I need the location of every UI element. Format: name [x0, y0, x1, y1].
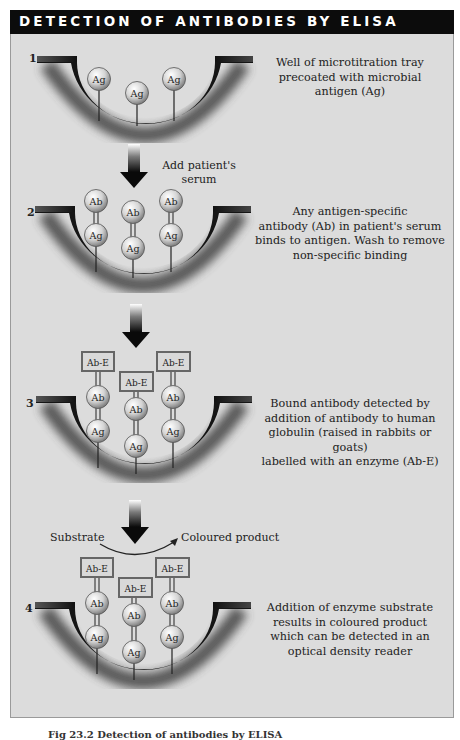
coloured-product-label: Coloured product [181, 531, 280, 544]
desc-line: optical density reader [250, 645, 450, 660]
enzyme-antibody-label: Ab-E [162, 358, 185, 368]
desc-line: non-specific binding [250, 249, 450, 264]
antigen-label: Ag [166, 426, 180, 437]
desc-line: globulin (raised in rabbits or goats) [250, 426, 450, 455]
antigen-label: Ag [165, 632, 179, 643]
step-2-description: Any antigen-specific antibody (Ab) in pa… [250, 205, 450, 263]
step-1-number: 1 [29, 52, 37, 65]
add-serum-label-line2: serum [182, 173, 217, 186]
antibody-label: Ab [166, 392, 180, 403]
desc-line: antibody (Ab) in patient's serum [250, 220, 450, 235]
antigen-label: Ag [129, 441, 143, 452]
step-3-description: Bound antibody detected by addition of a… [250, 397, 450, 470]
antibody-label: Ab [90, 598, 104, 609]
desc-line: antigen (Ag) [250, 85, 450, 100]
antibody-label: Ab [127, 610, 141, 621]
enzyme-antibody-label: Ab-E [161, 564, 184, 574]
enzyme-antibody-label: Ab-E [125, 378, 148, 388]
desc-line: binds to antigen. Wash to remove [250, 234, 450, 249]
antigen-label: Ag [92, 74, 106, 85]
desc-line: labelled with an enzyme (Ab-E) [250, 455, 450, 470]
add-serum-label-line1: Add patient's [161, 159, 236, 172]
antigen-label: Ag [89, 230, 103, 241]
down-arrow-2 [122, 304, 150, 348]
antibody-label: Ab [164, 196, 178, 207]
desc-line: Well of microtitration tray [250, 56, 450, 71]
substrate-label: Substrate [50, 531, 104, 544]
desc-line: Any antigen-specific [250, 205, 450, 220]
desc-line: Addition of enzyme substrate [250, 601, 450, 616]
antigen-label: Ag [126, 243, 140, 254]
desc-line: precoated with microbial [250, 71, 450, 86]
antibody-label: Ab [129, 404, 143, 415]
step-2-number: 2 [27, 206, 35, 219]
enzyme-antibody-label: Ab-E [124, 584, 147, 594]
desc-line: addition of antibody to human [250, 412, 450, 427]
antigen-label: Ag [167, 74, 181, 85]
antigen-label: Ag [91, 426, 105, 437]
antibody-label: Ab [89, 196, 103, 207]
down-arrow-1 [120, 144, 148, 188]
enzyme-antibody-label: Ab-E [85, 564, 108, 574]
substrate-conversion-arrow [100, 538, 178, 555]
antigen-label: Ag [127, 647, 141, 658]
enzyme-antibody-label: Ab-E [86, 358, 109, 368]
step-3-number: 3 [26, 397, 34, 410]
figure-caption: Fig 23.2 Detection of antibodies by ELIS… [48, 729, 282, 740]
down-arrow-3 [121, 500, 149, 544]
step-1-description: Well of microtitration tray precoated wi… [250, 56, 450, 100]
antigen-label: Ag [130, 88, 144, 99]
step-4-description: Addition of enzyme substrate results in … [250, 601, 450, 659]
desc-line: which can be detected in an [250, 630, 450, 645]
desc-line: results in coloured product [250, 616, 450, 631]
step-4-number: 4 [25, 602, 33, 615]
antibody-label: Ab [91, 392, 105, 403]
antibody-label: Ab [126, 207, 140, 218]
antigen-label: Ag [164, 230, 178, 241]
antigen-label: Ag [90, 632, 104, 643]
antibody-label: Ab [165, 598, 179, 609]
desc-line: Bound antibody detected by [250, 397, 450, 412]
